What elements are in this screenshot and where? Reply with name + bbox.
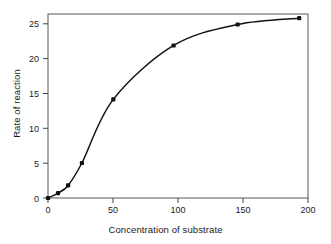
y-tick-label-10: 10 xyxy=(29,124,39,134)
data-point xyxy=(46,196,50,200)
data-point xyxy=(236,22,240,26)
data-point xyxy=(172,43,176,47)
chart-figure: 0 5 10 15 20 25 0 50 100 150 200 Concen xyxy=(0,0,331,244)
y-axis-title: Rate of reaction xyxy=(11,44,22,164)
data-point xyxy=(111,97,115,101)
y-tick-label-0: 0 xyxy=(34,194,39,204)
y-tick-label-20: 20 xyxy=(29,54,39,64)
y-axis-ticks xyxy=(43,24,48,198)
x-tick-label-100: 100 xyxy=(170,205,185,215)
x-tick-label-150: 150 xyxy=(235,205,250,215)
data-point xyxy=(80,161,84,165)
data-point xyxy=(66,183,70,187)
y-tick-label-25: 25 xyxy=(29,19,39,29)
data-point xyxy=(56,191,60,195)
plot-frame xyxy=(48,14,308,198)
x-axis-tick-labels: 0 50 100 150 200 xyxy=(45,205,315,215)
x-tick-label-50: 50 xyxy=(108,205,118,215)
x-axis-title: Concentration of substrate xyxy=(0,224,331,235)
y-tick-label-5: 5 xyxy=(34,159,39,169)
plot-area-border xyxy=(48,14,308,198)
x-tick-label-0: 0 xyxy=(45,205,50,215)
y-tick-label-15: 15 xyxy=(29,89,39,99)
data-point xyxy=(297,16,301,20)
y-axis-tick-labels: 0 5 10 15 20 25 xyxy=(29,19,39,203)
x-axis-ticks xyxy=(48,198,308,203)
reaction-rate-plot: 0 5 10 15 20 25 0 50 100 150 200 xyxy=(0,0,331,244)
x-tick-label-200: 200 xyxy=(300,205,315,215)
